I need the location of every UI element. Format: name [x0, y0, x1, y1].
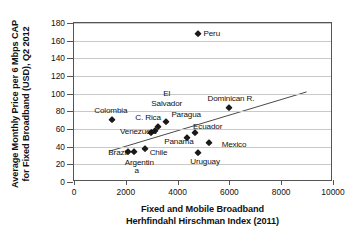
y-axis-tick-label: 60 — [25, 124, 65, 134]
el-label: El — [163, 89, 170, 98]
x-axis-tick-label: 4000 — [168, 187, 187, 197]
x-axis-title-line-2: Herhfindahl Hirschman Index (2011) — [73, 215, 332, 227]
y-axis-tick — [67, 76, 73, 77]
dominican-label: Dominican R. — [208, 94, 255, 103]
gridline-y — [74, 41, 331, 42]
panama-label: Panama — [164, 137, 193, 146]
x-axis-tick — [126, 180, 127, 185]
plot-area: 0204060801001201401601800200040006000800… — [73, 22, 332, 181]
brazil-label: Brazil — [108, 148, 127, 157]
y-axis-title-line-1: Average Monthly Price per 6 Mbps CAP — [10, 6, 21, 202]
x-axis-tick — [229, 180, 230, 185]
y-axis-tick — [67, 147, 73, 148]
ecuador-label: Ecuador — [193, 122, 222, 131]
y-axis-tick-label: 140 — [25, 53, 65, 63]
scatter-chart: Average Monthly Price per 6 Mbps CAP for… — [0, 0, 355, 239]
uruguay-label: Uruguay — [190, 157, 220, 166]
x-axis-tick-label: 6000 — [220, 187, 239, 197]
y-axis-tick — [67, 129, 73, 130]
x-axis-tick-label: 0 — [72, 187, 77, 197]
y-axis-tick — [67, 23, 73, 24]
x-axis-title: Fixed and Mobile Broadband Herhfindahl H… — [73, 203, 332, 227]
y-axis-tick-label: 120 — [25, 71, 65, 81]
argentina-label-2: a — [134, 166, 138, 175]
y-axis-tick — [67, 164, 73, 165]
x-axis-tick-label: 8000 — [272, 187, 291, 197]
x-axis-tick — [333, 180, 334, 185]
y-axis-tick-label: 180 — [25, 18, 65, 28]
chile-label: Chile — [150, 148, 168, 157]
y-axis-tick-label: 160 — [25, 36, 65, 46]
colombia-label: Colombia — [94, 106, 127, 115]
crica-label: C. Rica — [135, 113, 160, 122]
gridline-y — [74, 58, 331, 59]
x-axis-tick-label: 10000 — [321, 187, 344, 197]
paraguay-label: Paragua — [171, 110, 201, 119]
y-axis-tick — [67, 111, 73, 112]
gridline-y — [74, 23, 331, 24]
venezuela-label: Venezuela — [120, 127, 156, 136]
gridline-y — [74, 76, 331, 77]
mexico-label: Mexico — [222, 140, 247, 149]
y-axis-tick-label: 0 — [25, 177, 65, 187]
gridline-y — [74, 94, 331, 95]
peru-label: Peru — [204, 29, 221, 38]
y-axis-tick — [67, 41, 73, 42]
salvador-label: Salvador — [151, 99, 182, 108]
argentina-label: Argentin — [125, 158, 154, 167]
x-axis-tick-label: 2000 — [116, 187, 135, 197]
y-axis-tick-label: 20 — [25, 159, 65, 169]
x-axis-title-line-1: Fixed and Mobile Broadband — [73, 203, 332, 215]
y-axis-tick-label: 80 — [25, 106, 65, 116]
x-axis-tick — [178, 180, 179, 185]
x-axis-tick — [74, 180, 75, 185]
y-axis-tick — [67, 94, 73, 95]
y-axis-tick-label: 100 — [25, 89, 65, 99]
x-axis-tick — [281, 180, 282, 185]
y-axis-tick-label: 40 — [25, 142, 65, 152]
y-axis-tick — [67, 58, 73, 59]
y-axis-tick — [67, 182, 73, 183]
